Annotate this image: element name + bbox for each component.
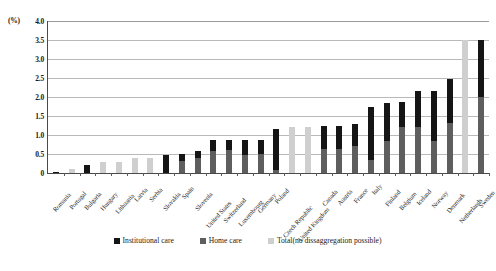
bar-segment [210, 151, 216, 173]
bar-segment [431, 141, 437, 173]
bar-segment [210, 140, 216, 151]
bar-slot [95, 21, 111, 173]
bar-segment [368, 160, 374, 173]
bar-segment [336, 126, 342, 150]
bar-segment [462, 40, 468, 173]
legend-swatch-total [268, 238, 274, 244]
bar-poland [273, 129, 279, 173]
y-axis-tick-3-0: 3.0 [35, 55, 44, 64]
bar-slot [410, 21, 426, 173]
legend-label-institutional: Institutional care [123, 236, 174, 245]
bar-slot [253, 21, 269, 173]
bar-bulgaria [84, 165, 90, 173]
bar-norway [431, 91, 437, 173]
bar-slot [300, 21, 316, 173]
bar-slot [347, 21, 363, 173]
bar-segment [195, 151, 201, 158]
bar-segment [258, 154, 264, 173]
x-label-serbia: Serbia [148, 186, 164, 203]
bar-segment [273, 129, 279, 170]
bar-segment [321, 149, 327, 173]
x-axis-category-labels: RomaniaPortugalBulgariaHungaryLithuaniaL… [47, 174, 488, 230]
bar-hungary [100, 162, 106, 173]
bar-segment [116, 162, 122, 173]
bar-segment [368, 107, 374, 159]
bar-slot [332, 21, 348, 173]
bar-slot [473, 21, 489, 173]
bar-slovakia [163, 155, 169, 173]
bar-segment [242, 140, 248, 156]
bar-segment [273, 170, 279, 173]
bar-segment [431, 91, 437, 140]
bar-slot [174, 21, 190, 173]
y-axis-tick-4-0: 4.0 [35, 17, 44, 26]
bar-segment [478, 40, 484, 97]
y-axis-tick-3-5: 3.5 [35, 36, 44, 45]
bar-segment [399, 127, 405, 173]
bar-slot [221, 21, 237, 173]
y-axis-tick-2-5: 2.5 [35, 74, 44, 83]
bar-segment [384, 103, 390, 141]
bar-segment [69, 169, 75, 173]
x-label-canada: Canada [320, 188, 338, 207]
bar-latvia [132, 158, 138, 173]
bar-slot [206, 21, 222, 173]
bar-spain [179, 154, 185, 173]
bar-slot [442, 21, 458, 173]
bar-segment [478, 97, 484, 173]
bar-slot [111, 21, 127, 173]
bar-segment [415, 127, 421, 173]
bar-slot [363, 21, 379, 173]
bar-canada [321, 126, 327, 173]
bar-germany [258, 140, 264, 173]
bar-slot [190, 21, 206, 173]
x-label-sweden: Sweden [477, 189, 496, 209]
bar-slot [269, 21, 285, 173]
legend-label-total: Total(no dissaggregation possible) [277, 236, 382, 245]
y-axis-tick-0-5: 0.5 [35, 150, 44, 159]
bar-segment [336, 149, 342, 173]
bar-slot [426, 21, 442, 173]
bar-slot [127, 21, 143, 173]
bar-segment [352, 124, 358, 146]
legend-item-total[interactable]: Total(no dissaggregation possible) [268, 236, 382, 245]
y-axis-tick-1-0: 1.0 [35, 131, 44, 140]
bar-segment [305, 127, 311, 173]
bar-iceland [415, 91, 421, 173]
bar-united-states [210, 140, 216, 173]
legend-item-institutional[interactable]: Institutional care [114, 236, 174, 245]
bars-layer [48, 21, 489, 173]
y-axis-tick-1-5: 1.5 [35, 112, 44, 121]
bar-segment [321, 126, 327, 150]
x-label-spain: Spain [180, 185, 195, 200]
bar-slot [379, 21, 395, 173]
legend-item-home[interactable]: Home care [200, 236, 242, 245]
bar-slot [458, 21, 474, 173]
bar-belgium [399, 102, 405, 173]
chart-legend: Institutional careHome careTotal(no diss… [0, 236, 495, 245]
bar-slot [48, 21, 64, 173]
bar-slot [80, 21, 96, 173]
bar-austria [336, 126, 342, 173]
bar-segment [147, 158, 153, 173]
plot-area [47, 21, 489, 174]
x-label-romania: Romania [51, 191, 72, 213]
bar-segment [447, 79, 453, 123]
bar-slot [158, 21, 174, 173]
bar-segment [53, 172, 59, 173]
y-axis-tick-labels: 4.03.53.02.52.01.51.00.50 [0, 0, 47, 271]
bar-united-kingdom [305, 127, 311, 173]
bar-slot [284, 21, 300, 173]
bar-segment [399, 102, 405, 127]
bar-france [352, 124, 358, 173]
bar-segment [84, 165, 90, 173]
bar-lithuania [116, 162, 122, 173]
bar-segment [352, 146, 358, 173]
bar-slot [316, 21, 332, 173]
bar-slot [64, 21, 80, 173]
x-label-latvia: Latvia [132, 186, 148, 203]
bar-segment [415, 91, 421, 127]
x-label-italy: Italy [370, 183, 383, 196]
bar-luxembourg [242, 140, 248, 173]
